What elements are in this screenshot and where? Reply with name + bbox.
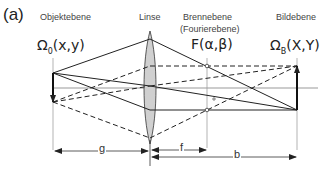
- optics-diagram: [0, 0, 335, 174]
- dim-g-label: g: [98, 142, 106, 154]
- lens: [144, 31, 156, 144]
- dim-f-label: f: [179, 141, 184, 153]
- dim-b-label: b: [233, 148, 241, 160]
